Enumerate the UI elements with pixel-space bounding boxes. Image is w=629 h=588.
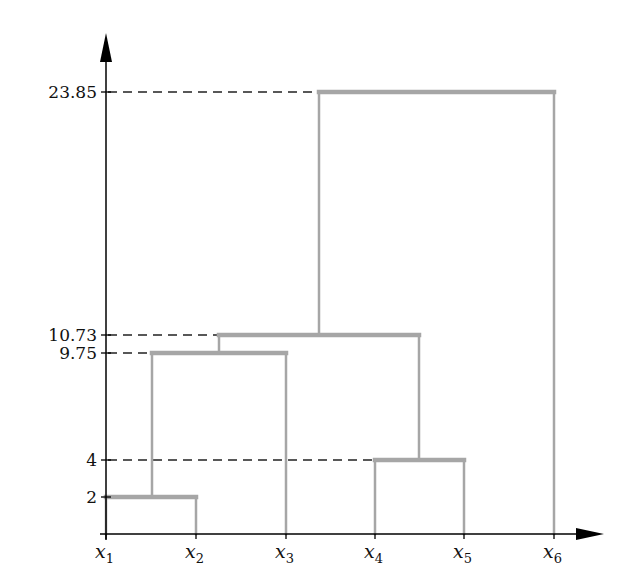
axes <box>100 50 585 540</box>
merge-x1-x2 <box>106 497 196 534</box>
guide-lines <box>108 92 375 460</box>
dendrogram-chart: 23.85 10.73 9.75 4 2 x1 x2 x3 x4 x5 x6 <box>0 0 629 588</box>
merge-x12-x3 <box>152 353 286 534</box>
y-tick-label: 23.85 <box>48 82 97 102</box>
y-tick-label: 4 <box>86 450 97 470</box>
x-leaf-labels: x1 x2 x3 x4 x5 x6 <box>95 540 562 566</box>
x-axis-arrow-icon <box>576 528 604 540</box>
y-tick-label: 2 <box>86 487 97 507</box>
leaf-label-x3: x3 <box>275 540 294 566</box>
leaf-label-x2: x2 <box>185 540 204 566</box>
merge-all-x6 <box>319 92 554 534</box>
merge-x4-x5 <box>375 460 464 534</box>
leaf-label-x6: x6 <box>543 540 562 566</box>
y-tick-label: 10.73 <box>48 325 97 345</box>
y-tick-label: 9.75 <box>59 343 97 363</box>
leaf-label-x4: x4 <box>364 540 383 566</box>
leaf-label-x1: x1 <box>95 540 114 566</box>
y-axis-arrow-icon <box>100 33 112 62</box>
leaf-label-x5: x5 <box>453 540 472 566</box>
dendrogram-links <box>106 92 554 534</box>
y-tick-labels: 23.85 10.73 9.75 4 2 <box>48 82 97 507</box>
